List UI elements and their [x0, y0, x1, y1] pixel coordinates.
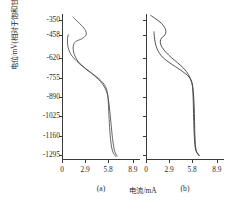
- y-tick-label: -755: [46, 74, 60, 82]
- y-tick-mark: [59, 78, 62, 79]
- y-tick-mark: [59, 155, 62, 156]
- y-tick-mark: [143, 58, 146, 59]
- panel-b-curves: [146, 14, 224, 160]
- panel-a-caption: (a): [97, 184, 105, 193]
- y-tick-label: -1295: [43, 151, 60, 159]
- y-tick-label: -620: [46, 54, 60, 62]
- chart-panel-a: 02.95.88.9: [62, 14, 140, 160]
- x-tick-mark: [85, 160, 86, 163]
- y-tick-mark: [59, 58, 62, 59]
- y-tick-mark: [143, 155, 146, 156]
- y-tick-label: -350: [46, 16, 60, 24]
- x-tick-mark: [192, 160, 193, 163]
- x-tick-mark: [133, 160, 134, 163]
- curve-reverse-scan: [67, 34, 116, 157]
- x-tick-mark: [169, 160, 170, 163]
- x-tick-mark: [217, 160, 218, 163]
- y-tick-label: -458: [46, 31, 60, 39]
- y-tick-label: -890: [46, 93, 60, 101]
- panel-b-caption: (b): [181, 184, 190, 193]
- y-tick-mark: [59, 97, 62, 98]
- chart-panel-b: 02.95.88.9: [146, 14, 224, 160]
- polarization-curve-figure: 电位/mV(相对于饱和甘汞电极) -1295-1160-1025-890-755…: [0, 0, 240, 210]
- x-tick-mark: [108, 160, 109, 163]
- y-tick-label: -1025: [43, 112, 60, 120]
- x-axis-title: 电流/mA: [129, 186, 156, 195]
- y-tick-mark: [59, 35, 62, 36]
- x-tick-label: 2.9: [164, 166, 173, 174]
- x-tick-label: 2.9: [80, 166, 89, 174]
- curve-reverse-scan: [154, 31, 199, 156]
- y-tick-mark: [59, 116, 62, 117]
- y-tick-mark: [143, 20, 146, 21]
- y-tick-mark: [143, 78, 146, 79]
- x-tick-label: 8.9: [128, 166, 137, 174]
- x-tick-mark: [146, 160, 147, 163]
- panel-a-curves: [62, 14, 140, 160]
- x-tick-label: 0: [60, 166, 64, 174]
- x-tick-mark: [62, 160, 63, 163]
- x-tick-label: 8.9: [212, 166, 221, 174]
- x-tick-label: 0: [144, 166, 148, 174]
- y-axis-tick-labels: -1295-1160-1025-890-755-620-458-350: [20, 0, 62, 210]
- x-tick-label: 5.8: [104, 166, 113, 174]
- y-tick-mark: [59, 20, 62, 21]
- y-tick-mark: [59, 136, 62, 137]
- x-tick-label: 5.8: [188, 166, 197, 174]
- y-tick-mark: [143, 35, 146, 36]
- y-tick-mark: [143, 116, 146, 117]
- y-tick-mark: [143, 97, 146, 98]
- curve-forward-scan: [73, 17, 118, 157]
- y-tick-mark: [143, 136, 146, 137]
- y-tick-label: -1160: [43, 132, 60, 140]
